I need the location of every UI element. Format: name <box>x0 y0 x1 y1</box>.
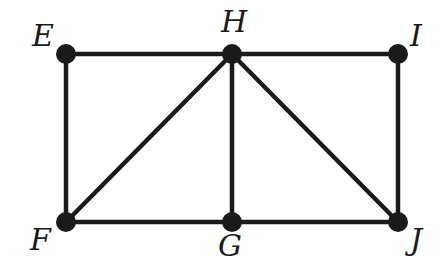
node-J <box>388 212 408 232</box>
node-label-I: I <box>409 18 423 53</box>
node-F <box>56 212 76 232</box>
node-label-J: J <box>404 222 424 257</box>
edges <box>66 54 398 222</box>
node-label-F: F <box>29 222 52 257</box>
edge-F-H <box>66 54 232 222</box>
graph-diagram: EHIFGJ <box>0 0 446 276</box>
node-H <box>222 44 242 64</box>
node-E <box>56 44 76 64</box>
edge-H-J <box>232 54 398 222</box>
node-label-E: E <box>31 18 54 53</box>
node-label-G: G <box>218 228 242 263</box>
node-I <box>388 44 408 64</box>
node-label-H: H <box>220 4 248 39</box>
